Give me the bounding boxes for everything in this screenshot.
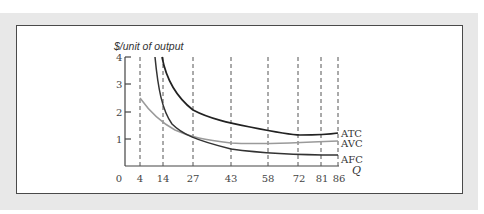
x-axis-label: Q bbox=[352, 164, 361, 177]
x-tick-4: 4 bbox=[137, 173, 143, 184]
avc-label: AVC bbox=[340, 138, 363, 149]
y-tick-1: 1 bbox=[116, 134, 122, 145]
x-tick-27: 27 bbox=[187, 173, 200, 184]
x-tick-58: 58 bbox=[262, 173, 275, 184]
x-tick-86: 86 bbox=[333, 173, 346, 184]
x-tick-0: 0 bbox=[116, 173, 122, 184]
x-tick-43: 43 bbox=[225, 173, 238, 184]
y-tick-2: 2 bbox=[116, 107, 122, 118]
atc-curve bbox=[162, 57, 338, 135]
y-tick-3: 3 bbox=[116, 79, 122, 90]
y-tick-4: 4 bbox=[116, 52, 122, 63]
x-tick-72: 72 bbox=[293, 173, 306, 184]
cost-curves-chart: $/unit of output 4 3 2 1 0 4 14 27 43 58… bbox=[0, 0, 484, 214]
x-tick-81: 81 bbox=[316, 173, 329, 184]
y-axis-label: $/unit of output bbox=[113, 40, 185, 52]
x-tick-14: 14 bbox=[157, 173, 170, 184]
afc-curve bbox=[155, 57, 338, 155]
